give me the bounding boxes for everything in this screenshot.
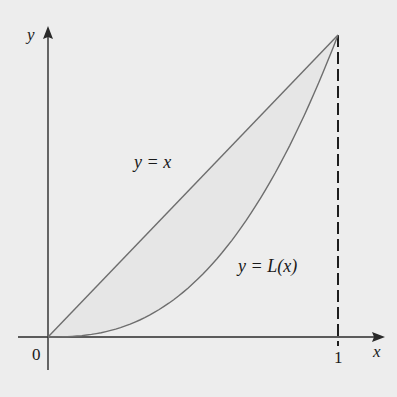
- x-tick-1-label: 1: [334, 348, 343, 367]
- lorenz-curve-chart: y x 0 1 y = x y = L(x): [0, 0, 397, 397]
- line-y-equals-x: [48, 35, 338, 337]
- line-label-y-equals-x: y = x: [132, 152, 171, 172]
- curve-label-lorenz: y = L(x): [236, 256, 297, 277]
- x-axis-label: x: [372, 342, 381, 361]
- y-axis-label: y: [25, 25, 35, 44]
- origin-label: 0: [32, 345, 41, 364]
